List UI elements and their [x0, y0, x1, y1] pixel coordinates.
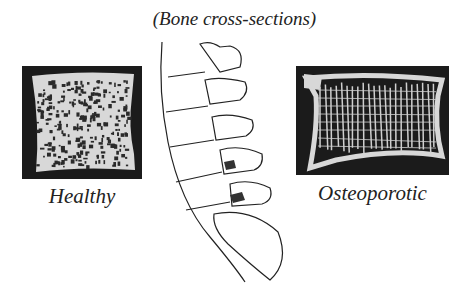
healthy-label: Healthy — [22, 184, 142, 209]
diagram-title: (Bone cross-sections) — [0, 8, 469, 30]
osteoporotic-bone-image — [296, 66, 449, 175]
healthy-bone-image — [22, 66, 142, 179]
osteoporotic-label: Osteoporotic — [296, 181, 449, 206]
spine-illustration-icon — [150, 32, 300, 287]
